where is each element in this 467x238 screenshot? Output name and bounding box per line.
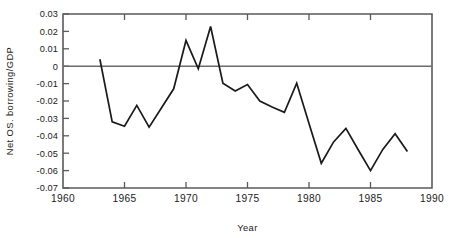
- y-axis-title: Net OS. borrowing/GDP: [4, 47, 15, 155]
- y-tick-label: -0.01: [37, 79, 58, 89]
- chart-figure: 0.030.020.010-0.01-0.02-0.03-0.04-0.05-0…: [0, 0, 467, 238]
- x-axis-title: Year: [237, 222, 258, 233]
- y-tick-label: -0.07: [37, 183, 58, 193]
- line-chart: 0.030.020.010-0.01-0.02-0.03-0.04-0.05-0…: [0, 0, 467, 238]
- x-tick-label: 1980: [297, 193, 321, 204]
- x-tick-label: 1990: [420, 193, 444, 204]
- y-tick-label: 0: [53, 62, 58, 72]
- y-tick-label: -0.05: [37, 149, 58, 159]
- y-tick-label: 0.02: [40, 27, 58, 37]
- x-tick-label: 1985: [359, 193, 383, 204]
- y-tick-label: 0.01: [40, 44, 58, 54]
- y-tick-label: 0.03: [40, 9, 58, 19]
- x-tick-label: 1975: [236, 193, 260, 204]
- y-tick-label: -0.06: [37, 166, 58, 176]
- x-tick-label: 1965: [113, 193, 137, 204]
- y-tick-label: -0.04: [37, 131, 58, 141]
- x-tick-label: 1960: [51, 193, 75, 204]
- x-tick-label: 1970: [174, 193, 198, 204]
- y-tick-label: -0.03: [37, 114, 58, 124]
- y-tick-label: -0.02: [37, 96, 58, 106]
